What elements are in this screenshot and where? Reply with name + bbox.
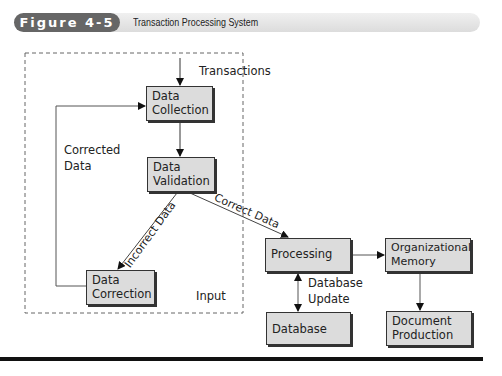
label-input: Input xyxy=(196,289,226,304)
label-database-update: Update xyxy=(308,292,350,307)
node-data-correction: Data Correction xyxy=(86,270,155,305)
node-organizational-memory: Organizational Memory xyxy=(385,238,471,272)
node-database: Database xyxy=(266,312,351,345)
node-data-validation: Data Validation xyxy=(147,157,215,192)
label-corrected-data: Data xyxy=(64,159,91,174)
label-database: Database xyxy=(308,276,363,291)
node-document-production: Document Production xyxy=(386,311,472,346)
label-transactions: Transactions xyxy=(199,64,271,79)
node-data-collection: Data Collection xyxy=(146,86,213,121)
bottom-rule xyxy=(0,357,483,361)
node-processing: Processing xyxy=(265,238,351,272)
label-corrected: Corrected xyxy=(64,143,120,158)
